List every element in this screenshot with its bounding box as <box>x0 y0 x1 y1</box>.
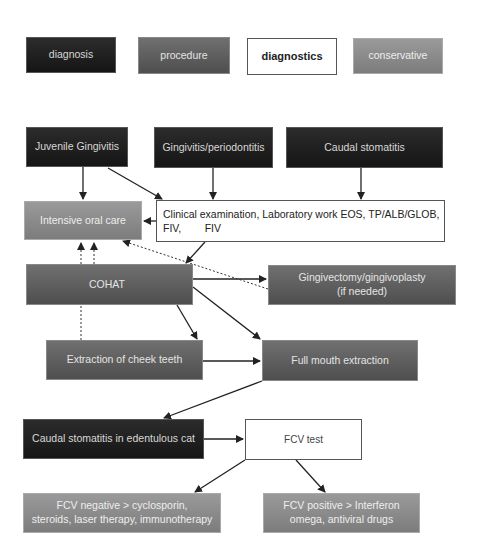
legend-diagnosis-label: diagnosis <box>49 48 93 62</box>
legend-procedure-label: procedure <box>160 49 207 63</box>
node-label-line2: omega, antiviral drugs <box>290 513 393 527</box>
node-fcv-negative: FCV negative > cyclosporin, steroids, la… <box>23 493 221 533</box>
node-label: Intensive oral care <box>40 214 126 228</box>
node-label-line2: steroids, laser therapy, immunotherapy <box>32 513 213 527</box>
node-full-mouth-extraction: Full mouth extraction <box>262 340 418 381</box>
node-fcv-test: FCV test <box>245 419 362 460</box>
node-label: Juvenile Gingivitis <box>35 140 119 154</box>
node-extraction-cheek-teeth: Extraction of cheek teeth <box>46 340 203 380</box>
legend-diagnostics-label: diagnostics <box>261 49 322 63</box>
legend-conservative-label: conservative <box>369 49 428 63</box>
node-label-line1: Gingivectomy/gingivoplasty <box>298 271 425 285</box>
node-label: Extraction of cheek teeth <box>67 353 183 367</box>
node-fcv-positive: FCV positive > Interferon omega, antivir… <box>263 493 420 533</box>
legend-procedure: procedure <box>138 37 230 74</box>
node-intensive-oral-care: Intensive oral care <box>24 201 142 240</box>
node-label: Caudal stomatitis <box>324 141 405 155</box>
node-cohat: COHAT <box>26 264 193 305</box>
legend-diagnosis: diagnosis <box>26 37 116 73</box>
legend-diagnostics: diagnostics <box>247 38 337 75</box>
node-gingivitis-periodontitis: Gingivitis/periodontitis <box>154 127 273 168</box>
node-label: FCV test <box>284 433 323 446</box>
node-label: COHAT <box>89 278 125 292</box>
node-label: Full mouth extraction <box>291 354 388 368</box>
node-label: Caudal stomatitis in edentulous cat <box>32 432 195 446</box>
node-caudal-stomatitis: Caudal stomatitis <box>286 127 443 168</box>
node-label: Gingivitis/periodontitis <box>162 141 264 155</box>
node-gingivectomy: Gingivectomy/gingivoplasty (if needed) <box>268 265 456 305</box>
legend-conservative: conservative <box>353 38 443 74</box>
node-label-line1: Clinical examination, Laboratory work EO… <box>163 208 439 222</box>
node-juvenile-gingivitis: Juvenile Gingivitis <box>26 127 128 167</box>
node-label-line2: (if needed) <box>337 285 387 299</box>
node-label-line1: FCV positive > Interferon <box>283 499 399 513</box>
node-label-line2: FIV, FIV <box>163 222 221 236</box>
node-label-line1: FCV negative > cyclosporin, <box>56 499 187 513</box>
node-caudal-stomatitis-edentulous: Caudal stomatitis in edentulous cat <box>23 419 204 459</box>
node-clinical-examination: Clinical examination, Laboratory work EO… <box>156 200 445 242</box>
